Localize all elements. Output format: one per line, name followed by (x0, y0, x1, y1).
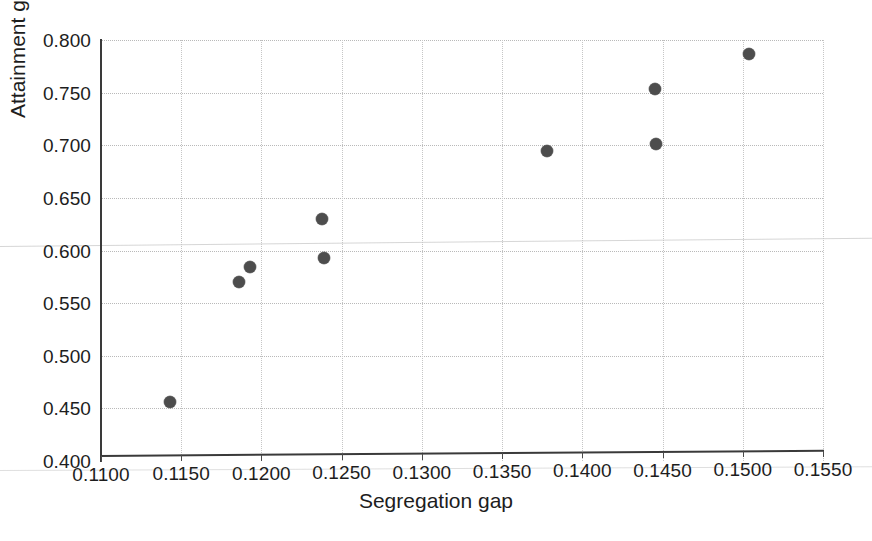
data-point (541, 145, 553, 157)
y-tick-label: 0.500 (43, 347, 91, 366)
gridline-horizontal (101, 251, 823, 252)
data-point (650, 138, 662, 150)
y-tick-label: 0.450 (43, 399, 91, 418)
x-tick-mark (342, 454, 343, 460)
x-tick-mark (101, 456, 102, 462)
gridline-horizontal (101, 356, 823, 357)
gridline-vertical (502, 40, 503, 461)
data-point (316, 213, 328, 225)
x-tick-label: 0.1450 (633, 461, 692, 480)
x-tick-label: 0.1500 (713, 460, 772, 479)
x-tick-mark (502, 453, 503, 459)
x-tick-mark (663, 452, 664, 458)
gridline-horizontal (101, 40, 823, 41)
y-axis-title: Attainment gap (6, 0, 30, 118)
x-tick-label: 0.1350 (473, 462, 532, 481)
x-tick-mark (261, 455, 262, 461)
gridline-vertical (342, 40, 343, 461)
x-tick-mark (823, 451, 824, 457)
y-tick-label: 0.700 (43, 136, 91, 155)
data-point (743, 48, 755, 60)
data-point (233, 276, 245, 288)
plot-area (101, 40, 823, 461)
x-tick-mark (422, 454, 423, 460)
x-tick-label: 0.1400 (553, 461, 612, 480)
gridline-horizontal (101, 93, 823, 94)
x-tick-mark (743, 451, 744, 457)
gridline-vertical (181, 40, 182, 461)
gridline-vertical (823, 40, 824, 461)
x-tick-label: 0.1550 (794, 460, 853, 479)
gridline-horizontal (101, 408, 823, 409)
x-tick-label: 0.1100 (72, 465, 129, 484)
gridline-vertical (663, 40, 664, 461)
x-tick-mark (181, 455, 182, 461)
y-tick-label: 0.600 (43, 242, 91, 261)
gridline-vertical (261, 40, 262, 461)
gridline-horizontal (101, 145, 823, 146)
data-point (244, 261, 256, 273)
data-point (164, 396, 176, 408)
scatter-chart: 0.4000.4500.5000.5500.6000.6500.7000.750… (0, 0, 872, 541)
x-tick-label: 0.1300 (393, 463, 452, 482)
y-axis-line (100, 39, 102, 462)
y-tick-label: 0.750 (43, 84, 91, 103)
x-tick-label: 0.1250 (312, 463, 371, 482)
y-tick-label: 0.550 (43, 294, 91, 313)
gridline-horizontal (101, 303, 823, 304)
gridline-vertical (743, 40, 744, 461)
data-point (649, 83, 661, 95)
x-axis-title: Segregation gap (0, 489, 872, 513)
y-tick-label: 0.650 (43, 189, 91, 208)
x-tick-label: 0.1150 (153, 464, 210, 483)
x-tick-label: 0.1200 (232, 464, 291, 483)
y-tick-label: 0.800 (43, 31, 91, 50)
gridline-vertical (582, 40, 583, 461)
data-point (318, 252, 330, 264)
x-tick-mark (582, 452, 583, 458)
gridline-horizontal (101, 198, 823, 199)
gridline-vertical (422, 40, 423, 461)
